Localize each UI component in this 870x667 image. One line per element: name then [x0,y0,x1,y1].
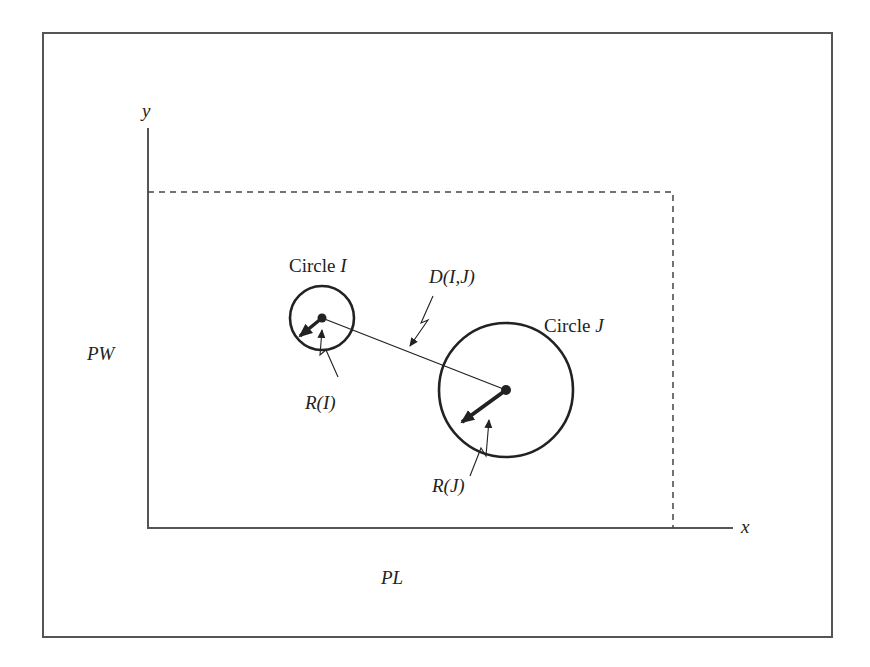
radius-i-leader [320,330,338,377]
distance-label: D(I,J) [428,266,475,288]
radius-j-arrow [462,390,506,422]
circle-j-label: Circle J [544,315,605,336]
x-axis-label: x [740,516,750,537]
radius-i-arrow [300,318,322,336]
plate-width-label: PW [86,343,117,364]
distance-leader [410,296,433,346]
radius-i-label: R(I) [304,392,336,414]
plate-length-label: PL [380,567,403,588]
radius-j-label: R(J) [431,475,465,497]
plate-boundary-dashed [148,192,673,528]
outer-frame [43,33,832,637]
circle-i-label: Circle I [289,255,348,276]
y-axis-label: y [140,100,151,121]
circle-packing-diagram: y x PW PL Circle I R(I) Circle J R(J) D(… [0,0,870,667]
